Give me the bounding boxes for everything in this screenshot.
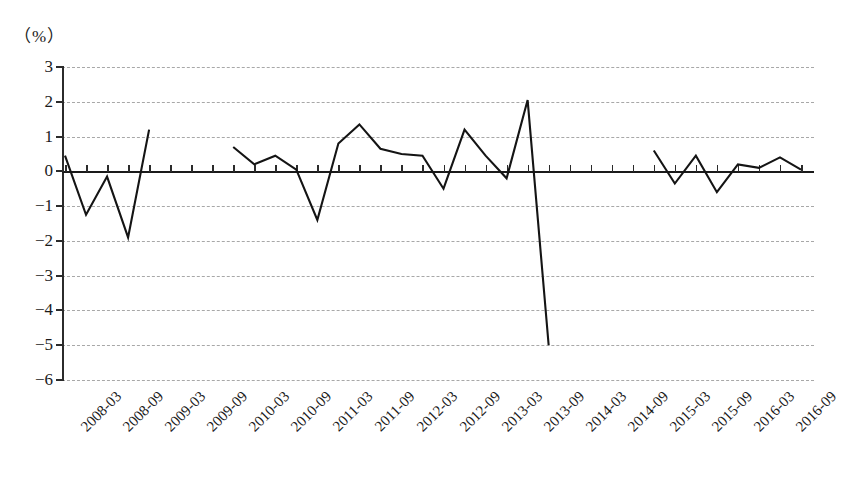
x-tick-label: 2009-03 [162,388,209,435]
series-line-growth-rate [62,67,812,380]
y-tick-label: −2 [35,231,53,251]
x-tick-label: 2012-03 [414,388,461,435]
x-tick-label: 2015-03 [666,388,713,435]
x-tick-label-group: 2008-032008-092009-032009-092010-032010-… [62,388,822,478]
y-tick-label: −6 [35,370,53,390]
x-tick-label: 2008-09 [120,388,167,435]
y-tick-label: −5 [35,335,53,355]
x-tick-label: 2013-03 [498,388,545,435]
y-tick-label: 2 [45,92,54,112]
y-axis-unit-label: （%） [14,22,65,47]
x-tick-label: 2011-09 [372,388,419,435]
chart-figure: （%） 3210−1−2−3−4−5−6 2008-032008-092009-… [0,0,852,480]
y-tick-label: −3 [35,266,53,286]
x-tick-label: 2014-09 [624,388,671,435]
y-tick-label: 0 [45,161,54,181]
x-tick-label: 2008-03 [78,388,125,435]
x-tick-label: 2010-03 [246,388,293,435]
x-tick-label: 2015-09 [708,388,755,435]
y-tick-label: 3 [45,57,54,77]
x-tick-label: 2012-09 [456,388,503,435]
x-tick-label: 2010-09 [288,388,335,435]
plot-area: 3210−1−2−3−4−5−6 [62,67,812,380]
gridline--6 [62,380,814,381]
x-tick-label: 2011-03 [330,388,377,435]
series-path [65,100,801,345]
x-tick-label: 2009-09 [204,388,251,435]
x-tick-label: 2013-09 [540,388,587,435]
y-tick-label: 1 [45,127,54,147]
y-tick-label: −4 [35,300,53,320]
y-tick-label: −1 [35,196,53,216]
x-tick-label: 2016-09 [793,388,840,435]
x-tick-label: 2016-03 [751,388,798,435]
x-tick-label: 2014-03 [582,388,629,435]
